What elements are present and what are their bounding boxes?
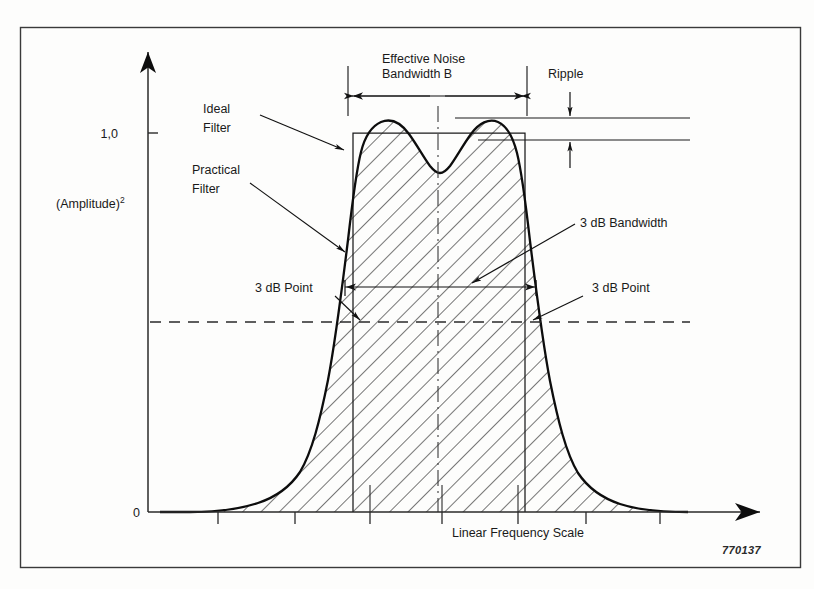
- three-db-point-left-label: 3 dB Point: [255, 281, 313, 295]
- y-axis-title: (Amplitude)2: [56, 195, 125, 211]
- svg-text:(Amplitude)2: (Amplitude)2: [56, 195, 125, 211]
- practical-filter-leader-line: [250, 183, 345, 252]
- x-axis-ticks: [218, 512, 660, 524]
- figure-container: Effective Noise Bandwidth B Ripple Ideal…: [0, 0, 814, 589]
- ideal-filter-label-line1: Ideal: [203, 102, 230, 116]
- three-db-point-right-label: 3 dB Point: [592, 281, 650, 295]
- figure-number: 770137: [722, 544, 762, 556]
- y-axis-tick-label-zero: 0: [133, 506, 140, 520]
- x-axis-title: Linear Frequency Scale: [452, 526, 584, 540]
- practical-filter-label-line1: Practical: [192, 163, 240, 177]
- y-axis-title-exponent: 2: [120, 195, 125, 205]
- three-db-point-right-leader-line: [533, 296, 583, 320]
- ideal-filter-leader-line: [260, 115, 344, 150]
- y-axis-title-text: (Amplitude): [56, 197, 120, 211]
- effective-bandwidth-label-line2: Bandwidth B: [382, 67, 452, 81]
- ripple-label: Ripple: [548, 67, 583, 81]
- ideal-filter-label-line2: Filter: [203, 121, 231, 135]
- filter-bandwidth-diagram: Effective Noise Bandwidth B Ripple Ideal…: [0, 0, 814, 589]
- effective-bandwidth-label-line1: Effective Noise: [382, 52, 465, 66]
- three-db-bandwidth-label: 3 dB Bandwidth: [580, 216, 668, 230]
- y-axis-tick-label-one: 1,0: [101, 127, 118, 141]
- practical-filter-label-line2: Filter: [192, 182, 220, 196]
